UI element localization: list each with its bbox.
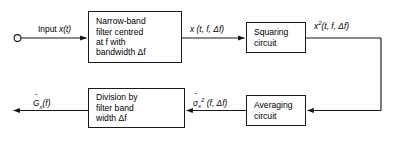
filtered-label-args: (t, f, Δf) bbox=[194, 24, 224, 34]
block-text-line: at f with bbox=[96, 37, 126, 47]
output-label-args: (f) bbox=[43, 98, 51, 108]
block-text-line: Narrow-band bbox=[96, 16, 146, 26]
signal-label-input: Input x(t) bbox=[38, 24, 71, 34]
block-text-line: bandwidth Δf bbox=[96, 47, 146, 57]
block-text-line: filter centred bbox=[96, 27, 143, 37]
block-text-line: Division by bbox=[96, 92, 138, 102]
input-label-args: (t) bbox=[63, 24, 71, 34]
block-text-line: Squaring bbox=[254, 27, 288, 37]
signal-label-variance: ˆσx2 (f, Δf) bbox=[193, 96, 227, 109]
input-terminal-circle bbox=[14, 35, 21, 42]
variance-label-args: (f, Δf) bbox=[205, 98, 228, 108]
block-text-line: circuit bbox=[254, 38, 276, 48]
block-text-line: circuit bbox=[254, 111, 276, 121]
averaging-circuit-block[interactable]: Averaging circuit bbox=[246, 95, 306, 126]
signal-label-output: ˆGx(f) bbox=[33, 98, 50, 110]
block-text-line: Averaging bbox=[254, 100, 293, 110]
variance-hat-accent: ˆ bbox=[194, 92, 197, 100]
division-block[interactable]: Division by filter band width Δf bbox=[88, 88, 185, 128]
block-text-line: width Δf bbox=[96, 113, 127, 123]
signal-label-squared: x2(t, f, Δf) bbox=[314, 19, 349, 31]
block-diagram: Narrow-band filter centred at f with ban… bbox=[0, 0, 399, 148]
output-hat-accent: ˆ bbox=[35, 93, 38, 101]
squaring-circuit-block[interactable]: Squaring circuit bbox=[246, 22, 306, 53]
squared-label-args: (t, f, Δf) bbox=[322, 21, 350, 31]
variance-label-subscript: x bbox=[198, 102, 201, 109]
signal-label-filtered: x (t, f, Δf) bbox=[190, 24, 224, 34]
input-label-prefix: Input bbox=[38, 24, 59, 34]
narrow-band-filter-block[interactable]: Narrow-band filter centred at f with ban… bbox=[88, 11, 182, 63]
block-text-line: filter band bbox=[96, 103, 134, 113]
